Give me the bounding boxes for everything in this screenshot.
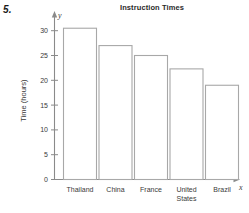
x-tick-labels: ThailandChinaFranceUnitedStatesBrazil xyxy=(67,186,232,202)
y-tick-label: 25 xyxy=(40,52,48,59)
y-tick-labels: 0 5 10 15 20 25 30 xyxy=(40,27,48,183)
bar xyxy=(206,85,239,179)
y-tick-label: 20 xyxy=(40,77,48,84)
bar xyxy=(170,69,203,180)
x-axis-letter: x xyxy=(238,183,243,192)
y-tick-label: 15 xyxy=(40,102,48,109)
bar xyxy=(64,28,97,179)
x-tick-label: China xyxy=(106,186,124,193)
y-tick-label: 10 xyxy=(40,126,48,133)
bar xyxy=(135,56,168,180)
chart-page: 5. Instruction Times Time (hours) y x 0 … xyxy=(0,0,249,213)
y-tick-label: 30 xyxy=(40,27,48,34)
bar-chart-plot: y x 0 5 10 15 20 25 30 ThailandChinaFran… xyxy=(0,0,249,213)
x-tick-label: Brazil xyxy=(213,186,231,193)
y-axis-arrowhead xyxy=(52,11,57,18)
bar-series xyxy=(64,28,239,179)
x-tick-label: UnitedStates xyxy=(176,186,197,202)
bar xyxy=(99,46,132,180)
y-axis-letter: y xyxy=(57,11,62,20)
y-tick-label: 0 xyxy=(44,176,48,183)
y-tick-label: 5 xyxy=(44,151,48,158)
x-tick-label: France xyxy=(140,186,162,193)
x-tick-label: Thailand xyxy=(67,186,94,193)
